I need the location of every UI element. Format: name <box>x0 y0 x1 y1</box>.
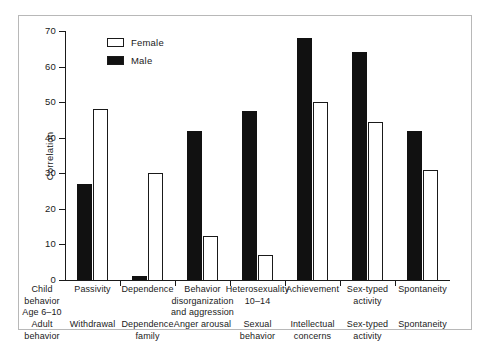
adult-behavior-labels: WithdrawalDependencefamilyAnger arousalS… <box>65 319 450 349</box>
bar-male[interactable] <box>242 111 257 280</box>
bar-group <box>285 31 340 280</box>
child-row-title-line3: Age 6–10 <box>19 307 65 319</box>
child-behavior-label-line: and aggression <box>163 307 242 319</box>
figure-frame: 010203040506070 Correlation Female Male … <box>18 15 472 330</box>
bar-female[interactable] <box>313 102 328 280</box>
bar-male[interactable] <box>187 131 202 280</box>
y-axis-tick-mark <box>59 280 65 281</box>
adult-behavior-label-line: Spontaneity <box>383 319 462 331</box>
bar-female[interactable] <box>203 236 218 280</box>
y-axis-tick-label: 10 <box>45 240 56 250</box>
child-row-title-line2: behavior <box>19 296 65 308</box>
y-axis-tick-label: 70 <box>45 26 56 36</box>
y-axis-tick-label: 50 <box>45 97 56 107</box>
bar-female[interactable] <box>148 173 163 280</box>
y-axis-tick-label: 20 <box>45 204 56 214</box>
child-behavior-label-line: activity <box>328 296 407 308</box>
x-axis-line <box>65 280 450 281</box>
plot-area: 010203040506070 Correlation Female Male <box>65 31 450 280</box>
bar-female[interactable] <box>258 255 273 280</box>
bar-male[interactable] <box>132 276 147 280</box>
bar-male[interactable] <box>77 184 92 280</box>
adult-behavior-label-line: activity <box>328 331 407 343</box>
bar-group <box>120 31 175 280</box>
adult-behavior-label-line: family <box>108 331 187 343</box>
y-axis-tick-label: 60 <box>45 62 56 72</box>
child-behavior-labels: PassivityDependenceBehaviordisorganizati… <box>65 284 450 324</box>
bar-group <box>65 31 120 280</box>
adult-behavior-label: Spontaneity <box>383 319 462 331</box>
y-axis-title: Correlation <box>44 131 55 180</box>
bar-female[interactable] <box>93 109 108 280</box>
bar-male[interactable] <box>407 131 422 280</box>
bar-female[interactable] <box>423 170 438 280</box>
bar-group <box>230 31 285 280</box>
bar-group <box>175 31 230 280</box>
bars-layer <box>65 31 450 280</box>
bar-group <box>395 31 450 280</box>
bar-male[interactable] <box>297 38 312 280</box>
child-behavior-label: Spontaneity <box>383 284 462 296</box>
bar-female[interactable] <box>368 122 383 280</box>
child-behavior-label-line: 10–14 <box>218 296 297 308</box>
child-behavior-label-line: Spontaneity <box>383 284 462 296</box>
bar-group <box>340 31 395 280</box>
bar-male[interactable] <box>352 52 367 280</box>
adult-row-title-line2: behavior <box>19 331 65 343</box>
